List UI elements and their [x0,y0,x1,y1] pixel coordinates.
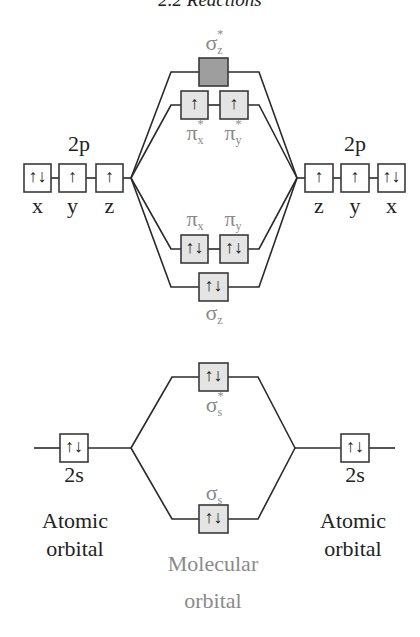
electron-up-icon: ↑ [341,166,369,187]
electron-up-icon: ↑ [181,93,208,114]
axis-label-x: x [24,193,51,219]
sigma-z-star-label: σ*z [196,32,232,54]
electron-pair-icon: ↑↓ [24,166,51,187]
axis-label-z: z [96,193,123,219]
axis-label-x: x [378,193,405,219]
sigma-z-label: σz [198,302,230,324]
axis-label-y: y [59,193,86,219]
electron-pair-icon: ↑↓ [199,275,228,296]
left-atomic-orbital-caption: Atomicorbital [25,507,125,563]
sigma-s-label: σs [198,482,230,504]
electron-up-icon: ↑ [59,166,86,187]
pi-x-star-label: π*x [180,122,210,144]
right-atomic-orbital-caption: Atomicorbital [303,507,403,563]
electron-pair-icon: ↑↓ [341,436,369,457]
right-2p-label: 2p [330,131,380,157]
pi-y-star-label: π*y [218,122,248,144]
electron-pair-icon: ↑↓ [199,507,228,528]
sigma-z-star-box [199,58,228,86]
electron-pair-icon: ↑↓ [181,237,208,258]
axis-label-z: z [305,193,333,219]
sigma-s-star-label: σ*s [198,394,230,416]
electron-up-icon: ↑ [96,166,123,187]
electron-pair-icon: ↑↓ [378,166,405,187]
electron-up-icon: ↑ [305,166,333,187]
axis-label-y: y [341,193,369,219]
electron-pair-icon: ↑↓ [199,365,228,386]
electron-pair-icon: ↑↓ [220,237,248,258]
left-2p-label: 2p [54,131,104,157]
left-2s-label: 2s [49,462,99,488]
electron-up-icon: ↑ [220,93,248,114]
pi-y-label: πy [218,208,248,230]
electron-pair-icon: ↑↓ [60,436,88,457]
pi-x-label: πx [180,208,210,230]
molecular-orbital-caption: Molecularorbital [148,545,278,619]
mo-diagram: 2.2 Reactions [0,0,420,637]
right-2s-label: 2s [330,462,380,488]
